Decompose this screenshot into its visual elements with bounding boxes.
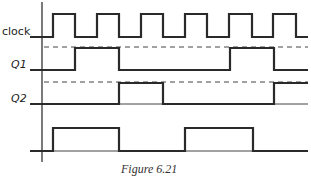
signal-label-q1: Q1 bbox=[11, 58, 27, 71]
q2-waveform bbox=[30, 83, 308, 104]
clock-waveform bbox=[30, 14, 308, 37]
signal-label-clock: clock bbox=[2, 25, 31, 38]
output-waveform bbox=[30, 128, 308, 151]
timing-diagram: clock Q1 Q2 Figure 6.21 bbox=[0, 0, 311, 176]
signal-label-q2: Q2 bbox=[11, 92, 27, 105]
figure-caption: Figure 6.21 bbox=[120, 162, 177, 176]
q1-waveform bbox=[30, 48, 308, 70]
